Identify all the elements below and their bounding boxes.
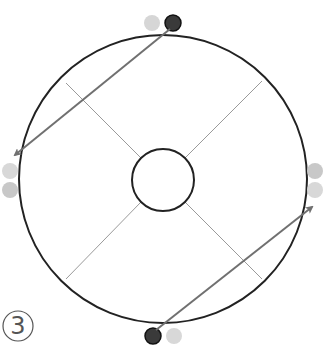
marker-bottom	[145, 328, 182, 344]
marker-top	[144, 15, 181, 31]
dot-light	[307, 163, 323, 179]
arrow-bottom-to-right	[156, 207, 312, 330]
spoke-bottom-right	[185, 202, 262, 279]
step-label: 3	[3, 311, 33, 341]
dot-light	[2, 182, 18, 198]
dot-light	[2, 163, 18, 179]
inner-circle	[132, 149, 194, 211]
spoke-bottom-left	[66, 202, 141, 279]
dot-light	[144, 15, 160, 31]
spoke-top-left	[66, 83, 141, 158]
dot-light	[166, 328, 182, 344]
label-number: 3	[10, 312, 25, 340]
rotation-diagram: 3	[0, 0, 325, 350]
dot-light	[307, 182, 323, 198]
arrow-top-to-left	[15, 29, 170, 155]
spoke-top-right	[185, 81, 262, 158]
dot-dark	[145, 328, 161, 344]
marker-left	[2, 163, 18, 198]
dot-dark	[165, 15, 181, 31]
marker-right	[307, 163, 323, 198]
